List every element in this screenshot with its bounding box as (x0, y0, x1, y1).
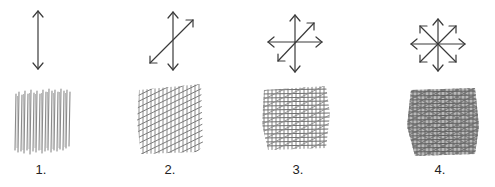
panel-4: 4. (375, 0, 495, 187)
panel-label-4: 4. (425, 162, 455, 177)
hatch-swatch-2 (135, 82, 207, 158)
eight-way-arrows-icon (408, 16, 468, 74)
panel-1: 1. (0, 0, 125, 187)
hatch-swatch-1 (14, 88, 72, 156)
vertical-arrow-icon (18, 5, 58, 75)
four-way-arrows-icon (265, 12, 325, 74)
panel-label-2: 2. (155, 162, 185, 177)
panel-label-3: 3. (283, 162, 313, 177)
hatch-swatch-3 (260, 84, 332, 154)
cross-arrows-icon (145, 8, 200, 73)
panel-2: 2. (125, 0, 250, 187)
panel-label-1: 1. (26, 162, 56, 177)
panel-3: 3. (250, 0, 375, 187)
hatch-swatch-4 (405, 86, 481, 158)
